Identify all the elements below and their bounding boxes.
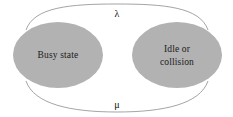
edge-label-mu: μ: [114, 99, 119, 110]
node-idle-or-collision: [132, 22, 222, 88]
node-idle-or-collision-label-line2: collision: [160, 57, 194, 67]
node-idle-or-collision-label-line1: Idle or: [164, 44, 191, 54]
node-busy-state-label: Busy state: [38, 50, 79, 60]
edge-label-lambda: λ: [115, 8, 120, 19]
transition-diagram: Busy state Idle or collision λ μ: [0, 0, 233, 117]
